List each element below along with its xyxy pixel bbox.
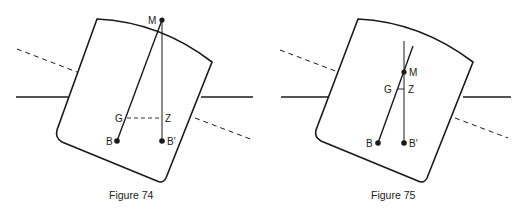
inclined-waterline-left: [17, 49, 77, 72]
inclined-waterline-right: [195, 118, 253, 140]
label-m: M: [148, 15, 156, 26]
point-b: [114, 138, 120, 144]
figure-caption: Figure 75: [371, 189, 416, 201]
diagram-canvas: M G Z B B′ Figure 74 M G Z B B′ Figure 7…: [0, 0, 522, 213]
label-b-prime: B′: [167, 136, 176, 147]
point-b: [375, 140, 381, 146]
hull-outline: [57, 19, 212, 182]
inclined-waterline-left: [280, 50, 338, 72]
point-b-prime: [401, 140, 407, 146]
figure-caption: Figure 74: [109, 189, 154, 201]
label-b: B: [366, 138, 373, 149]
label-g: G: [384, 84, 392, 95]
inclined-waterline-right: [455, 118, 508, 138]
point-m: [159, 17, 164, 22]
label-z: Z: [408, 84, 414, 95]
figure-74: M G Z B B′ Figure 74: [16, 15, 253, 201]
figure-75: M G Z B B′ Figure 75: [280, 19, 511, 201]
label-b: B: [106, 136, 113, 147]
label-m: M: [409, 67, 417, 78]
point-b-prime: [159, 138, 165, 144]
hull-outline: [316, 19, 473, 182]
label-b-prime: B′: [409, 138, 418, 149]
label-z: Z: [165, 113, 171, 124]
point-m: [401, 69, 406, 74]
label-g: G: [115, 113, 123, 124]
